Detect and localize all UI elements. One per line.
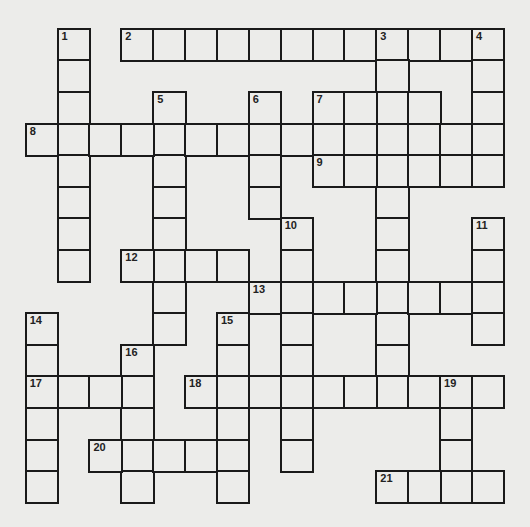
grid-cell[interactable]	[375, 344, 409, 378]
grid-cell[interactable]	[312, 123, 346, 157]
grid-cell[interactable]	[152, 28, 186, 62]
grid-cell[interactable]	[184, 249, 218, 283]
grid-cell[interactable]	[216, 470, 250, 504]
grid-cell[interactable]: 11	[471, 217, 505, 251]
grid-cell[interactable]	[152, 312, 186, 346]
grid-cell[interactable]	[120, 470, 154, 504]
grid-cell[interactable]	[152, 186, 186, 220]
grid-cell[interactable]: 9	[312, 154, 346, 188]
grid-cell[interactable]: 14	[25, 312, 59, 346]
grid-cell[interactable]: 5	[152, 91, 186, 125]
grid-cell[interactable]	[312, 281, 346, 315]
grid-cell[interactable]	[471, 312, 505, 346]
grid-cell[interactable]: 19	[439, 375, 473, 409]
grid-cell[interactable]	[25, 439, 59, 473]
grid-cell[interactable]	[280, 439, 314, 473]
grid-cell[interactable]	[280, 123, 314, 157]
grid-cell[interactable]	[88, 123, 122, 157]
grid-cell[interactable]	[25, 344, 59, 378]
grid-cell[interactable]: 3	[375, 28, 409, 62]
grid-cell[interactable]	[471, 375, 505, 409]
grid-cell[interactable]	[216, 123, 250, 157]
grid-cell[interactable]	[57, 249, 91, 283]
grid-cell[interactable]	[343, 91, 377, 125]
grid-cell[interactable]	[120, 375, 154, 409]
grid-cell[interactable]	[280, 344, 314, 378]
grid-cell[interactable]	[375, 154, 409, 188]
grid-cell[interactable]	[88, 375, 122, 409]
grid-cell[interactable]	[375, 312, 409, 346]
grid-cell[interactable]	[216, 407, 250, 441]
grid-cell[interactable]	[407, 375, 441, 409]
grid-cell[interactable]	[216, 28, 250, 62]
grid-cell[interactable]: 1	[57, 28, 91, 62]
grid-cell[interactable]	[343, 28, 377, 62]
grid-cell[interactable]	[216, 375, 250, 409]
grid-cell[interactable]	[57, 375, 91, 409]
grid-cell[interactable]: 16	[120, 344, 154, 378]
grid-cell[interactable]	[216, 439, 250, 473]
grid-cell[interactable]	[152, 249, 186, 283]
grid-cell[interactable]: 10	[280, 217, 314, 251]
grid-cell[interactable]	[375, 249, 409, 283]
grid-cell[interactable]: 20	[88, 439, 122, 473]
grid-cell[interactable]: 21	[375, 470, 409, 504]
grid-cell[interactable]: 15	[216, 312, 250, 346]
grid-cell[interactable]	[439, 28, 473, 62]
grid-cell[interactable]	[57, 154, 91, 188]
grid-cell[interactable]	[343, 281, 377, 315]
grid-cell[interactable]	[407, 154, 441, 188]
grid-cell[interactable]	[343, 123, 377, 157]
grid-cell[interactable]	[280, 28, 314, 62]
grid-cell[interactable]	[312, 375, 346, 409]
grid-cell[interactable]	[216, 249, 250, 283]
grid-cell[interactable]	[152, 123, 186, 157]
grid-cell[interactable]	[57, 186, 91, 220]
grid-cell[interactable]	[471, 59, 505, 93]
grid-cell[interactable]	[120, 407, 154, 441]
grid-cell[interactable]	[152, 217, 186, 251]
grid-cell[interactable]	[280, 249, 314, 283]
grid-cell[interactable]	[471, 154, 505, 188]
grid-cell[interactable]: 2	[120, 28, 154, 62]
grid-cell[interactable]	[312, 28, 346, 62]
grid-cell[interactable]	[184, 28, 218, 62]
grid-cell[interactable]	[152, 281, 186, 315]
grid-cell[interactable]: 17	[25, 375, 59, 409]
grid-cell[interactable]	[57, 59, 91, 93]
grid-cell[interactable]	[184, 123, 218, 157]
grid-cell[interactable]	[439, 154, 473, 188]
grid-cell[interactable]	[248, 123, 282, 157]
grid-cell[interactable]	[471, 91, 505, 125]
grid-cell[interactable]	[120, 439, 154, 473]
grid-cell[interactable]	[407, 281, 441, 315]
grid-cell[interactable]	[152, 439, 186, 473]
grid-cell[interactable]	[343, 375, 377, 409]
grid-cell[interactable]: 13	[248, 281, 282, 315]
grid-cell[interactable]	[407, 91, 441, 125]
grid-cell[interactable]	[439, 439, 473, 473]
grid-cell[interactable]: 4	[471, 28, 505, 62]
grid-cell[interactable]	[57, 217, 91, 251]
grid-cell[interactable]	[375, 59, 409, 93]
grid-cell[interactable]	[120, 123, 154, 157]
grid-cell[interactable]	[439, 123, 473, 157]
grid-cell[interactable]	[375, 123, 409, 157]
grid-cell[interactable]	[25, 407, 59, 441]
grid-cell[interactable]	[407, 470, 441, 504]
grid-cell[interactable]	[248, 154, 282, 188]
grid-cell[interactable]	[248, 28, 282, 62]
grid-cell[interactable]	[343, 154, 377, 188]
grid-cell[interactable]: 18	[184, 375, 218, 409]
grid-cell[interactable]	[25, 470, 59, 504]
grid-cell[interactable]	[439, 407, 473, 441]
grid-cell[interactable]	[248, 186, 282, 220]
grid-cell[interactable]	[375, 186, 409, 220]
grid-cell[interactable]	[471, 249, 505, 283]
grid-cell[interactable]	[407, 123, 441, 157]
grid-cell[interactable]	[280, 281, 314, 315]
grid-cell[interactable]	[407, 28, 441, 62]
grid-cell[interactable]: 6	[248, 91, 282, 125]
grid-cell[interactable]	[280, 375, 314, 409]
grid-cell[interactable]	[280, 407, 314, 441]
